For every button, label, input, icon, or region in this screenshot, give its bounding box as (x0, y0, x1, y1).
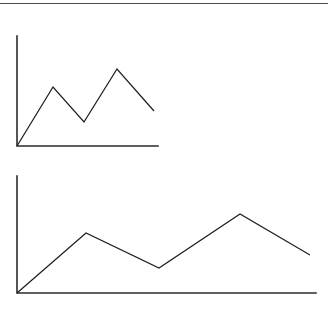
two-line-charts-figure (0, 0, 328, 311)
figure-page (0, 0, 328, 311)
chart-top (17, 36, 158, 146)
chart-bottom-axes (17, 176, 316, 293)
chart-bottom (17, 176, 316, 293)
chart-top-series-line (17, 69, 154, 146)
chart-bottom-series-line (17, 214, 310, 293)
